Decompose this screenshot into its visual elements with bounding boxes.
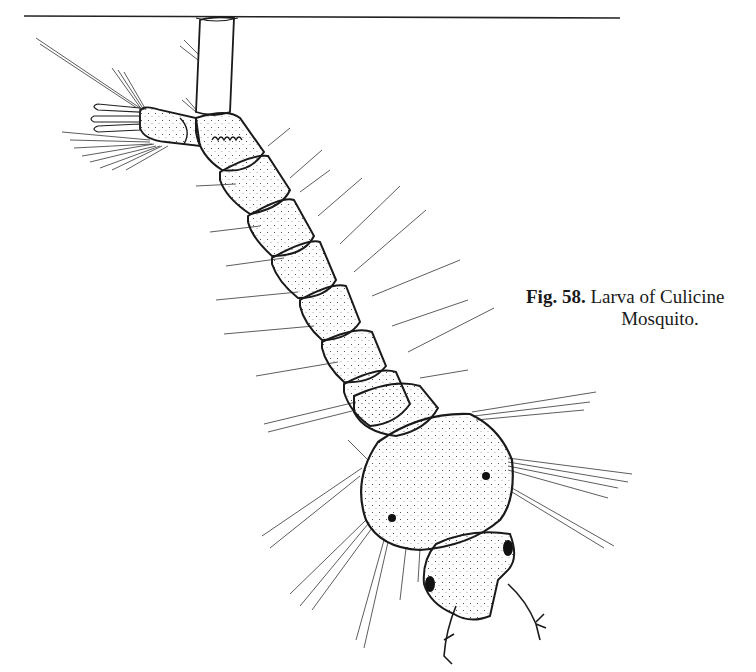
mosquito-larva-illustration bbox=[0, 0, 756, 672]
water-surface-line bbox=[24, 16, 620, 18]
caption-line-1: Larva of Culicine bbox=[590, 286, 724, 307]
figure-label: Fig. 58. bbox=[526, 286, 586, 307]
figure-caption: Fig. 58. Larva of Culicine Mosquito. bbox=[524, 286, 756, 330]
anal-papillae bbox=[91, 104, 140, 132]
eye-right bbox=[503, 540, 513, 556]
caption-line-2: Mosquito. bbox=[524, 308, 756, 330]
eye-left bbox=[425, 576, 435, 592]
head bbox=[424, 532, 514, 619]
abdominal-segments bbox=[196, 113, 438, 436]
siphon bbox=[196, 17, 234, 115]
